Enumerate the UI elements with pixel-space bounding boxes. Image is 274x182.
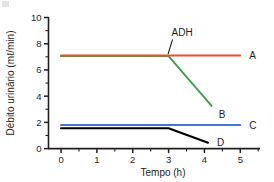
chart-container: 0246810 Débito urinário (mℓ/min) 012345 … (0, 0, 274, 182)
x-tick-label: 5 (238, 154, 243, 165)
x-tick-label: 1 (94, 154, 99, 165)
x-axis: 012345 Tempo (h) (48, 149, 260, 178)
y-tick-label: 2 (36, 117, 41, 128)
series-end-labels: ABCD (217, 50, 256, 148)
series-label-b: B (219, 109, 226, 120)
data-series-group (61, 56, 240, 143)
urine-output-line-chart: 0246810 Débito urinário (mℓ/min) 012345 … (0, 0, 274, 182)
adh-leader-line (168, 39, 173, 54)
y-axis: 0246810 Débito urinário (mℓ/min) (5, 12, 49, 154)
series-label-d: D (217, 137, 224, 148)
annotation-group: ADH (168, 27, 193, 54)
y-tick-label: 4 (36, 91, 41, 102)
series-line-b (61, 56, 212, 106)
x-tick-label: 3 (166, 154, 171, 165)
series-line-d (61, 128, 208, 142)
x-axis-title: Tempo (h) (140, 167, 185, 178)
y-tick-label: 6 (36, 64, 41, 75)
y-tick-label: 0 (36, 143, 41, 154)
x-tick-label: 0 (58, 154, 63, 165)
series-label-c: C (249, 120, 256, 131)
y-tick-label: 10 (31, 12, 42, 23)
y-axis-tick-labels: 0246810 (31, 12, 42, 154)
y-axis-title: Débito urinário (mℓ/min) (5, 31, 16, 136)
y-tick-label: 8 (36, 38, 41, 49)
x-axis-tick-labels: 012345 (58, 154, 243, 165)
adh-annotation-label: ADH (172, 27, 193, 38)
x-tick-label: 2 (130, 154, 135, 165)
series-label-a: A (249, 50, 256, 61)
x-tick-label: 4 (202, 154, 207, 165)
